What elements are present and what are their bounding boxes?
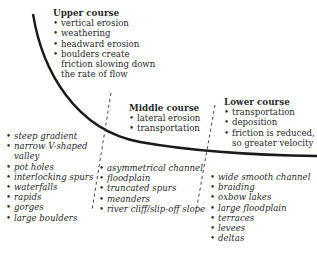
- lower-course-features: wide smooth channel braiding oxbow lakes…: [210, 172, 317, 243]
- process-item: lateral erosion: [129, 113, 219, 123]
- lower-course-processes: Lower course transportation deposition f…: [224, 97, 317, 148]
- upper-course-processes: Upper course vertical erosion weathering…: [53, 8, 163, 79]
- feature-item: terraces: [210, 213, 317, 223]
- lower-course-title: Lower course: [224, 97, 317, 107]
- middle-course-processes: Middle course lateral erosion transporta…: [129, 103, 219, 134]
- process-item: vertical erosion: [53, 18, 163, 28]
- feature-item: gorges: [6, 202, 96, 212]
- feature-item: river cliff/slip-off slope: [99, 204, 209, 214]
- process-item: weathering: [53, 28, 163, 38]
- feature-item: wide smooth channel: [210, 172, 317, 182]
- upper-course-features: steep gradient narrow V-shaped valley po…: [6, 131, 96, 223]
- feature-item: deltas: [210, 233, 317, 243]
- feature-item: levees: [210, 223, 317, 233]
- feature-item: floodplain: [99, 173, 209, 183]
- process-item: transportation: [224, 107, 317, 117]
- feature-item: rapids: [6, 192, 96, 202]
- middle-course-features: asymmetrical channel floodplain truncate…: [99, 163, 209, 214]
- feature-item: large floodplain: [210, 203, 317, 213]
- process-item: boulders create friction slowing down th…: [53, 49, 163, 80]
- process-item: deposition: [224, 117, 317, 127]
- feature-item: narrow V-shaped valley: [6, 141, 96, 161]
- feature-item: asymmetrical channel: [99, 163, 209, 173]
- upper-course-title: Upper course: [53, 8, 163, 18]
- feature-item: meanders: [99, 194, 209, 204]
- process-item: transportation: [129, 123, 219, 133]
- process-item: friction is reduced, so greater velocity: [224, 128, 317, 148]
- feature-item: pot holes: [6, 162, 96, 172]
- feature-item: waterfalls: [6, 182, 96, 192]
- feature-item: truncated spurs: [99, 183, 209, 193]
- middle-course-title: Middle course: [129, 103, 219, 113]
- feature-item: large boulders: [6, 213, 96, 223]
- feature-item: oxbow lakes: [210, 192, 317, 202]
- feature-item: interlocking spurs: [6, 172, 96, 182]
- process-item: headward erosion: [53, 39, 163, 49]
- feature-item: braiding: [210, 182, 317, 192]
- feature-item: steep gradient: [6, 131, 96, 141]
